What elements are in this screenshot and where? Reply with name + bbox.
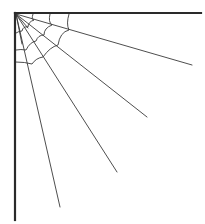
web-threads xyxy=(16,14,192,207)
corner-frame xyxy=(15,13,201,220)
web-ray-3 xyxy=(16,14,117,172)
spider-web-illustration xyxy=(0,0,205,224)
